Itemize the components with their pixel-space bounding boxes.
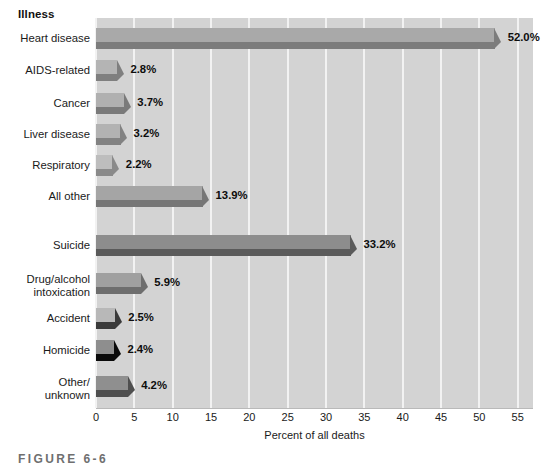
figure-caption: FIGURE 6-6 xyxy=(18,452,108,463)
bar-chart: Illness Heart disease52.0%AIDS-related2.… xyxy=(0,0,553,463)
bar-shadow xyxy=(96,354,114,361)
bar-shadow xyxy=(96,200,203,207)
bar xyxy=(96,308,115,332)
bar-face xyxy=(96,376,128,390)
bar-row: Heart disease52.0% xyxy=(0,28,553,52)
bar-end-bevel xyxy=(112,155,119,176)
x-tick-55: 55 xyxy=(512,411,524,423)
bar-shadow xyxy=(96,322,115,329)
x-axis-line xyxy=(96,408,533,409)
bar-row: Respiratory2.2% xyxy=(0,155,553,179)
bar xyxy=(96,186,203,210)
bar-face xyxy=(96,28,495,42)
bar-row: Liver disease3.2% xyxy=(0,124,553,148)
bar-shadow xyxy=(96,249,351,256)
bar-end-bevel xyxy=(120,124,127,145)
bar-label: Other/ unknown xyxy=(0,376,90,401)
bar xyxy=(96,155,113,179)
bar-label: Heart disease xyxy=(0,32,90,45)
bar-value-label: 33.2% xyxy=(364,238,396,250)
bar xyxy=(96,28,495,52)
bar-row: Cancer3.7% xyxy=(0,93,553,117)
bar-label: All other xyxy=(0,190,90,203)
bar-label: Accident xyxy=(0,312,90,325)
bar-shadow xyxy=(96,107,124,114)
bar-value-label: 5.9% xyxy=(154,276,180,288)
bar-end-bevel xyxy=(124,93,131,114)
bar-end-bevel xyxy=(115,308,122,329)
bar-end-bevel xyxy=(128,376,135,397)
x-tick-10: 10 xyxy=(167,411,179,423)
bar-end-bevel xyxy=(117,60,124,81)
bar-value-label: 3.2% xyxy=(134,127,160,139)
bar xyxy=(96,273,141,297)
bar-value-label: 2.5% xyxy=(128,311,154,323)
bar-face xyxy=(96,235,351,249)
x-tick-20: 20 xyxy=(243,411,255,423)
bar xyxy=(96,340,114,364)
bar-end-bevel xyxy=(350,235,357,256)
x-axis-title: Percent of all deaths xyxy=(96,429,533,441)
bar-row: Suicide33.2% xyxy=(0,235,553,259)
bar-face xyxy=(96,124,121,138)
bar-face xyxy=(96,186,203,200)
bar-row: AIDS-related2.8% xyxy=(0,60,553,84)
bar-face xyxy=(96,308,115,322)
bar-shadow xyxy=(96,169,113,176)
bar-end-bevel xyxy=(494,28,501,49)
bar xyxy=(96,376,128,400)
bar-row: Drug/alcohol intoxication5.9% xyxy=(0,273,553,297)
bar-end-bevel xyxy=(114,340,121,361)
bar-label: AIDS-related xyxy=(0,64,90,77)
bar-face xyxy=(96,93,124,107)
bar xyxy=(96,60,117,84)
bar xyxy=(96,124,121,148)
bar-value-label: 3.7% xyxy=(137,96,163,108)
bar-face xyxy=(96,155,113,169)
bar-end-bevel xyxy=(141,273,148,294)
x-tick-35: 35 xyxy=(358,411,370,423)
bar-row: All other13.9% xyxy=(0,186,553,210)
x-tick-5: 5 xyxy=(131,411,137,423)
group-header-illness: Illness xyxy=(18,8,55,20)
x-tick-45: 45 xyxy=(435,411,447,423)
bar-row: Accident2.5% xyxy=(0,308,553,332)
bar-value-label: 2.2% xyxy=(126,158,152,170)
bar-end-bevel xyxy=(202,186,209,207)
bar-label: Cancer xyxy=(0,97,90,110)
bar-shadow xyxy=(96,287,141,294)
x-tick-0: 0 xyxy=(93,411,99,423)
bar-value-label: 52.0% xyxy=(508,31,540,43)
bar-label: Liver disease xyxy=(0,128,90,141)
bar-face xyxy=(96,340,114,354)
bar-label: Respiratory xyxy=(0,159,90,172)
bar xyxy=(96,93,124,117)
bar-shadow xyxy=(96,138,121,145)
bar-label: Homicide xyxy=(0,344,90,357)
x-tick-15: 15 xyxy=(205,411,217,423)
bar-value-label: 4.2% xyxy=(141,379,167,391)
bar-value-label: 13.9% xyxy=(216,189,248,201)
bar-face xyxy=(96,273,141,287)
bar-shadow xyxy=(96,390,128,397)
x-tick-40: 40 xyxy=(397,411,409,423)
bar-label: Drug/alcohol intoxication xyxy=(0,273,90,298)
bar-shadow xyxy=(96,42,495,49)
bar-row: Homicide2.4% xyxy=(0,340,553,364)
bar-value-label: 2.4% xyxy=(127,343,153,355)
bar-row: Other/ unknown4.2% xyxy=(0,376,553,400)
bar xyxy=(96,235,351,259)
bar-value-label: 2.8% xyxy=(130,63,156,75)
bar-face xyxy=(96,60,117,74)
x-tick-30: 30 xyxy=(320,411,332,423)
x-tick-25: 25 xyxy=(282,411,294,423)
bar-label: Suicide xyxy=(0,239,90,252)
bar-shadow xyxy=(96,74,117,81)
x-tick-50: 50 xyxy=(473,411,485,423)
